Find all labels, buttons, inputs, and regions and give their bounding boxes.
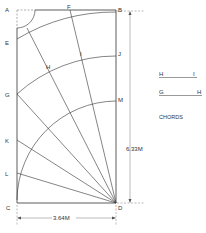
small-corner-arc [17, 10, 35, 28]
legend-title: CHORDS [159, 114, 183, 120]
radial-lines [17, 10, 116, 203]
legend-chord2-start: G [159, 89, 164, 95]
label-B: B [118, 7, 122, 13]
chords-legend: H I G H CHORDS [159, 71, 202, 120]
label-H: H [46, 64, 50, 70]
label-G: G [5, 92, 10, 98]
outer-arc-E [17, 12, 116, 39]
legend-chord1-end: I [193, 71, 195, 77]
height-dimension-label: 6.33M [126, 146, 143, 152]
geometric-construction-diagram: A B C D E F G H I J K L M 3.64M 6.33M H … [0, 0, 206, 233]
legend-chord1-start: H [159, 71, 163, 77]
label-D: D [118, 205, 123, 211]
label-K: K [5, 138, 9, 144]
label-M: M [118, 97, 123, 103]
inner-arc-C-M [17, 101, 116, 200]
label-J: J [118, 51, 121, 57]
label-C: C [6, 205, 11, 211]
label-F: F [67, 4, 71, 10]
dimension-lines [17, 11, 145, 225]
middle-arc-G-J [17, 56, 116, 94]
label-E: E [5, 40, 9, 46]
legend-chord2-end: H [197, 89, 201, 95]
label-I: I [80, 51, 82, 57]
label-A: A [5, 7, 9, 13]
label-L: L [5, 171, 9, 177]
width-dimension-label: 3.64M [53, 215, 70, 221]
